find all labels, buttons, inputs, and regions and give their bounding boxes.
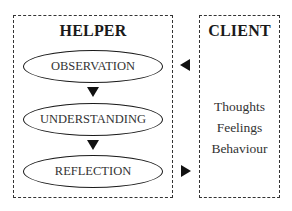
- observation-label: OBSERVATION: [51, 59, 135, 74]
- reflection-label: REFLECTION: [55, 164, 131, 179]
- helper-title: HELPER: [14, 22, 172, 40]
- arrow-down-icon: [87, 140, 99, 150]
- client-item-behaviour: Behaviour: [200, 138, 279, 159]
- arrow-left-icon: [180, 59, 190, 71]
- understanding-node: UNDERSTANDING: [23, 103, 163, 136]
- client-box: CLIENT Thoughts Feelings Behaviour: [199, 15, 280, 198]
- client-title: CLIENT: [200, 22, 279, 40]
- reflection-node: REFLECTION: [23, 155, 163, 188]
- observation-node: OBSERVATION: [23, 50, 163, 83]
- client-items: Thoughts Feelings Behaviour: [200, 96, 279, 159]
- arrow-right-icon: [181, 165, 191, 177]
- arrow-down-icon: [87, 87, 99, 97]
- client-item-feelings: Feelings: [200, 117, 279, 138]
- understanding-label: UNDERSTANDING: [40, 112, 146, 127]
- client-item-thoughts: Thoughts: [200, 96, 279, 117]
